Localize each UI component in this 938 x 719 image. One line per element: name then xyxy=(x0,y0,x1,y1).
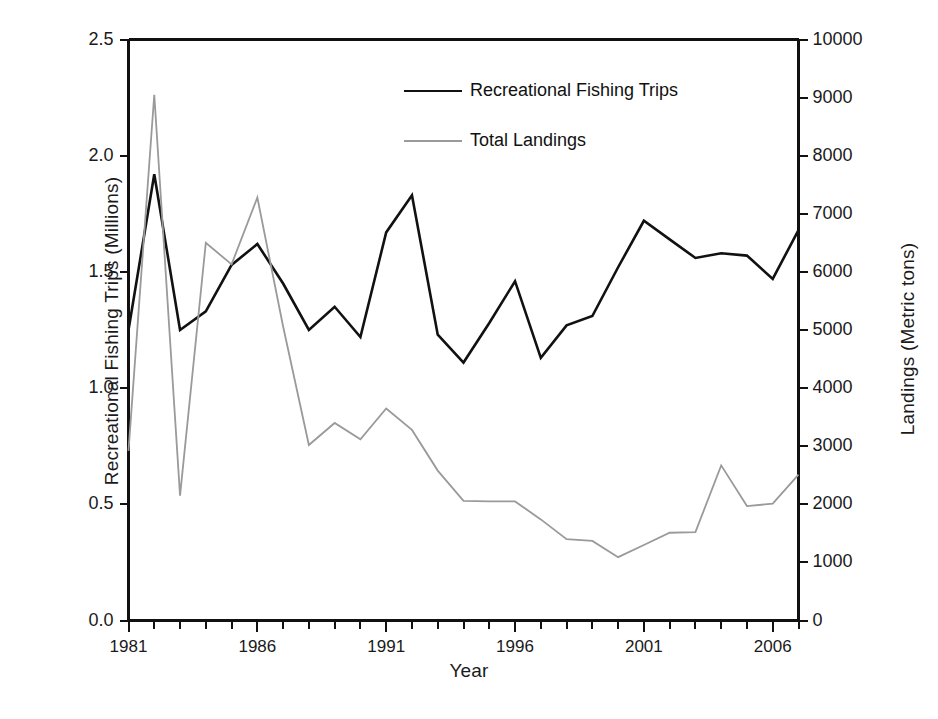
x-tick-label: 1991 xyxy=(346,637,426,657)
y-tick-label-right: 3000 xyxy=(813,435,903,456)
y-tick-label-left: 2.5 xyxy=(34,29,114,50)
x-tick-label: 1996 xyxy=(475,637,555,657)
y-tick-label-right: 9000 xyxy=(813,87,903,108)
y-tick-label-right: 1000 xyxy=(813,551,903,572)
y-tick-label-right: 5000 xyxy=(813,319,903,340)
series-line-1 xyxy=(129,174,799,362)
y-tick-label-right: 4000 xyxy=(813,377,903,398)
plot-area xyxy=(0,0,938,719)
data-series xyxy=(129,95,799,557)
y-tick-label-left: 0.5 xyxy=(34,493,114,514)
y-tick-label-left: 0.0 xyxy=(34,610,114,631)
x-tick-label: 2006 xyxy=(733,637,813,657)
legend-label-2: Total Landings xyxy=(470,130,586,151)
y-tick-label-right: 6000 xyxy=(813,261,903,282)
y-tick-label-right: 10000 xyxy=(813,29,903,50)
y-tick-label-right: 2000 xyxy=(813,493,903,514)
y-tick-label-right: 8000 xyxy=(813,145,903,166)
y-tick-label-left: 2.0 xyxy=(34,145,114,166)
x-tick-label: 1986 xyxy=(217,637,297,657)
axis-frame xyxy=(129,40,799,621)
legend-swatches xyxy=(404,91,462,141)
series-line-2 xyxy=(129,95,799,557)
y-tick-label-right: 0 xyxy=(813,610,903,631)
x-tick-label: 2001 xyxy=(604,637,684,657)
y-tick-label-left: 1.0 xyxy=(34,377,114,398)
chart-figure: Recreational Fishing Trips (Millions) La… xyxy=(0,0,938,719)
x-tick-label: 1981 xyxy=(89,637,169,657)
legend-label-1: Recreational Fishing Trips xyxy=(470,80,678,101)
y-tick-label-right: 7000 xyxy=(813,203,903,224)
axis-ticks xyxy=(120,40,808,632)
y-tick-label-left: 1.5 xyxy=(34,261,114,282)
